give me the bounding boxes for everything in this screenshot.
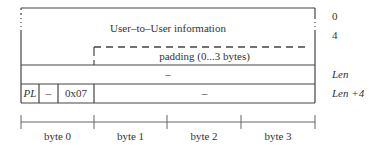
padding-label: padding (0...3 bytes) [94, 50, 315, 62]
offset-len: Len [332, 68, 349, 80]
byte-2-label: byte 2 [167, 130, 241, 142]
type-code-field: 0x07 [58, 87, 94, 99]
byte-3-label: byte 3 [241, 130, 315, 142]
len-row-label: – [21, 68, 315, 80]
offset-4: 4 [332, 29, 338, 41]
offset-0: 0 [332, 10, 338, 22]
pl-field: PL [21, 87, 39, 99]
offset-len-plus-4: Len +4 [332, 87, 364, 99]
byte-1-label: byte 1 [94, 130, 167, 142]
byte-0-label: byte 0 [21, 130, 94, 142]
reserved-field: – [94, 87, 315, 99]
spare-field: – [39, 87, 58, 99]
user-info-label: User–to–User information [21, 22, 315, 34]
